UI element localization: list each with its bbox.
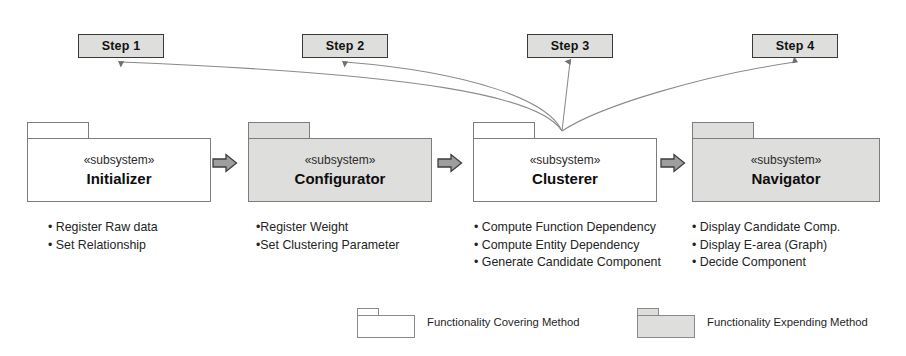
- list-item: • Display E-area (Graph): [692, 237, 840, 255]
- diagram-canvas: Step 1 Step 2 Step 3 Step 4 «subsystem» …: [0, 0, 906, 356]
- flow-arrow-icon: [212, 153, 238, 173]
- package-body: «subsystem» Clusterer: [473, 138, 657, 202]
- legend-label: Functionality Expending Method: [707, 316, 868, 328]
- package-navigator[interactable]: «subsystem» Navigator: [692, 122, 880, 202]
- list-item: • Compute Function Dependency: [474, 219, 661, 237]
- list-item: • Generate Candidate Component: [474, 254, 661, 272]
- package-stereotype: «subsystem»: [530, 153, 601, 168]
- package-name: Initializer: [86, 170, 151, 188]
- legend-package-icon: [357, 308, 415, 338]
- connector-to-step-2: [345, 62, 562, 131]
- step-label: Step 3: [551, 39, 590, 53]
- step-label: Step 2: [326, 39, 365, 53]
- list-item: •Register Weight: [256, 219, 399, 237]
- package-body: «subsystem» Configurator: [248, 138, 432, 202]
- connector-to-step-3: [562, 62, 570, 131]
- connector-to-step-4: [562, 62, 795, 131]
- step-box-4[interactable]: Step 4: [752, 34, 838, 58]
- bullet-list-clusterer: • Compute Function Dependency • Compute …: [474, 219, 661, 272]
- package-name: Configurator: [295, 170, 386, 188]
- package-body: «subsystem» Initializer: [27, 138, 211, 202]
- package-tab: [27, 122, 89, 139]
- step-box-2[interactable]: Step 2: [302, 34, 388, 58]
- list-item: •Set Clustering Parameter: [256, 237, 399, 255]
- legend-package-icon: [637, 308, 695, 338]
- flow-arrow-icon: [660, 153, 686, 173]
- list-item: • Decide Component: [692, 254, 840, 272]
- flow-arrow-icon: [437, 153, 463, 173]
- legend-package-body: [357, 315, 415, 338]
- step-box-3[interactable]: Step 3: [527, 34, 613, 58]
- package-stereotype: «subsystem»: [305, 153, 376, 168]
- step-box-1[interactable]: Step 1: [78, 34, 164, 58]
- package-initializer[interactable]: «subsystem» Initializer: [27, 122, 211, 202]
- list-item: • Register Raw data: [48, 219, 158, 237]
- bullet-list-configurator: •Register Weight •Set Clustering Paramet…: [256, 219, 399, 254]
- legend-label: Functionality Covering Method: [427, 316, 580, 328]
- package-tab: [248, 122, 310, 139]
- package-tab: [692, 122, 754, 139]
- bullet-list-initializer: • Register Raw data • Set Relationship: [48, 219, 158, 254]
- bullet-list-navigator: • Display Candidate Comp. • Display E-ar…: [692, 219, 840, 272]
- step-label: Step 1: [102, 39, 141, 53]
- connector-to-step-1: [121, 62, 562, 131]
- package-tab: [473, 122, 535, 139]
- package-configurator[interactable]: «subsystem» Configurator: [248, 122, 432, 202]
- package-name: Navigator: [751, 170, 820, 188]
- package-stereotype: «subsystem»: [751, 153, 822, 168]
- list-item: • Set Relationship: [48, 237, 158, 255]
- package-clusterer[interactable]: «subsystem» Clusterer: [473, 122, 657, 202]
- list-item: • Compute Entity Dependency: [474, 237, 661, 255]
- package-stereotype: «subsystem»: [84, 153, 155, 168]
- list-item: • Display Candidate Comp.: [692, 219, 840, 237]
- package-name: Clusterer: [532, 170, 598, 188]
- step-label: Step 4: [776, 39, 815, 53]
- legend-package-body: [637, 315, 695, 338]
- package-body: «subsystem» Navigator: [692, 138, 880, 202]
